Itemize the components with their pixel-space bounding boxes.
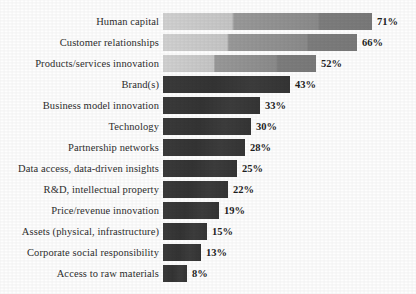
bar [163,34,357,51]
bar-value-label: 28% [245,139,271,156]
bar-value-label: 71% [372,13,398,30]
bar-track: 33% [163,97,416,114]
bar [163,244,201,261]
category-label: Human capital [96,13,163,30]
chart-row: Price/revenue innovation19% [0,202,416,219]
bar [163,181,228,198]
bar-value-label: 25% [237,160,263,177]
bar-value-label: 30% [251,118,277,135]
bar-track: 19% [163,202,416,219]
chart-row: Partnership networks28% [0,139,416,156]
bar-track: 28% [163,139,416,156]
bar-track: 22% [163,181,416,198]
bar [163,202,219,219]
category-label: Technology [109,118,163,135]
bar-value-label: 8% [187,265,208,282]
bar [163,265,187,282]
category-label: Assets (physical, infrastructure) [22,223,163,240]
chart-row: Assets (physical, infrastructure)15% [0,223,416,240]
chart-row: Access to raw materials8% [0,265,416,282]
chart-row: Technology30% [0,118,416,135]
bar [163,160,237,177]
category-label: Access to raw materials [57,265,163,282]
bar-track: 30% [163,118,416,135]
bar-value-label: 19% [219,202,245,219]
bar-value-label: 43% [290,76,316,93]
bar-value-label: 13% [201,244,227,261]
bar-track: 66% [163,34,416,51]
chart-row: Customer relationships66% [0,34,416,51]
category-label: Products/services innovation [35,55,163,72]
category-label: Data access, data-driven insights [18,160,163,177]
chart-row: Data access, data-driven insights25% [0,160,416,177]
category-label: Corporate social responsibility [27,244,163,261]
chart-row: Human capital71% [0,13,416,30]
bar-track: 43% [163,76,416,93]
bar [163,139,245,156]
bar-value-label: 52% [316,55,342,72]
bar-value-label: 15% [207,223,233,240]
bar-track: 71% [163,13,416,30]
bar-track: 25% [163,160,416,177]
bar-track: 15% [163,223,416,240]
bar [163,76,290,93]
bar [163,55,316,72]
chart-row: Products/services innovation52% [0,55,416,72]
category-label: Business model innovation [43,97,163,114]
bar-value-label: 66% [357,34,383,51]
bar [163,13,372,30]
chart-row: R&D, intellectual property22% [0,181,416,198]
category-label: Price/revenue innovation [51,202,163,219]
category-label: Partnership networks [68,139,163,156]
bar-value-label: 33% [260,97,286,114]
bar-track: 8% [163,265,416,282]
bar [163,97,260,114]
bar-track: 13% [163,244,416,261]
chart-row: Corporate social responsibility13% [0,244,416,261]
bar-value-label: 22% [228,181,254,198]
bar [163,223,207,240]
chart-row: Brand(s)43% [0,76,416,93]
bar [163,118,251,135]
bar-rows: Human capital71%Customer relationships66… [0,13,416,286]
category-label: Brand(s) [121,76,163,93]
category-label: R&D, intellectual property [44,181,163,198]
bar-chart: Human capital71%Customer relationships66… [0,0,416,294]
bar-track: 52% [163,55,416,72]
chart-row: Business model innovation33% [0,97,416,114]
category-label: Customer relationships [60,34,163,51]
